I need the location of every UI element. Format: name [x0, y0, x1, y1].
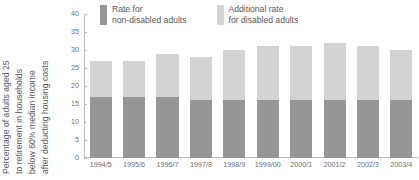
bar-slot-1998-9[interactable] — [218, 14, 251, 158]
chart-container: Percentage of adults aged 25 to retireme… — [0, 0, 419, 180]
y-tick-label: 15 — [71, 99, 79, 108]
stacked-bar[interactable] — [190, 57, 212, 158]
stacked-bar[interactable] — [390, 50, 412, 158]
bar-slot-1995-6[interactable] — [117, 14, 150, 158]
y-tick-label: 40 — [71, 9, 79, 18]
y-tick-label: 35 — [71, 27, 79, 36]
bar-segment-non-disabled[interactable] — [290, 100, 312, 158]
bar-segment-non-disabled[interactable] — [257, 100, 279, 158]
bar-segment-non-disabled[interactable] — [90, 97, 112, 158]
bar-slot-2002-3[interactable] — [351, 14, 384, 158]
legend-label-non-disabled-line1: Rate for — [112, 4, 143, 14]
x-tick-label-2003-4: 2003/4 — [385, 160, 418, 176]
bar-segment-disabled-additional[interactable] — [390, 50, 412, 100]
bar-slot-1997-8[interactable] — [184, 14, 217, 158]
y-tick-label: 10 — [71, 117, 79, 126]
x-tick-label-1999-00: 1999/00 — [251, 160, 284, 176]
x-tick-label-1995-6: 1995/6 — [117, 160, 150, 176]
y-axis-title-line-4: after deducting housing costs — [40, 61, 50, 174]
bar-segment-disabled-additional[interactable] — [123, 61, 145, 97]
bar-segment-non-disabled[interactable] — [123, 97, 145, 158]
bar-segment-non-disabled[interactable] — [390, 100, 412, 158]
bar-slot-2001-2[interactable] — [318, 14, 351, 158]
y-tick-label: 5 — [75, 135, 79, 144]
stacked-bar[interactable] — [324, 43, 346, 158]
bar-slot-2000-1[interactable] — [284, 14, 317, 158]
legend-label-disabled-line1: Additional rate — [229, 4, 284, 14]
bar-segment-disabled-additional[interactable] — [257, 46, 279, 100]
y-axis-title-line-3: below 60% median income — [27, 70, 37, 174]
bar-segment-disabled-additional[interactable] — [223, 50, 245, 100]
x-tick-label-1994-5: 1994/5 — [84, 160, 117, 176]
bar-group — [84, 14, 418, 158]
y-tick-label: 30 — [71, 45, 79, 54]
bar-segment-disabled-additional[interactable] — [324, 43, 346, 101]
stacked-bar[interactable] — [156, 54, 178, 158]
stacked-bar[interactable] — [357, 46, 379, 158]
bar-segment-non-disabled[interactable] — [223, 100, 245, 158]
bar-slot-1996-7[interactable] — [151, 14, 184, 158]
x-axis-labels: 1994/51995/61996/71997/81998/91999/00200… — [84, 160, 418, 176]
y-axis-title: Percentage of adults aged 25 to retireme… — [0, 0, 62, 180]
bar-segment-disabled-additional[interactable] — [357, 46, 379, 100]
bar-segment-non-disabled[interactable] — [324, 100, 346, 158]
y-tick-label: 0 — [75, 153, 79, 162]
plot-area: 0510152025303540 — [84, 14, 418, 158]
y-axis-title-line-2: to retirement in households — [14, 69, 24, 174]
stacked-bar[interactable] — [90, 61, 112, 158]
x-tick-label-2000-1: 2000/1 — [284, 160, 317, 176]
y-axis-title-line-1: Percentage of adults aged 25 — [1, 60, 11, 174]
bar-segment-non-disabled[interactable] — [190, 100, 212, 158]
bar-segment-disabled-additional[interactable] — [290, 46, 312, 100]
x-tick-label-1997-8: 1997/8 — [184, 160, 217, 176]
bar-slot-1994-5[interactable] — [84, 14, 117, 158]
x-tick-label-2002-3: 2002/3 — [351, 160, 384, 176]
stacked-bar[interactable] — [223, 50, 245, 158]
x-tick-label-2001-2: 2001/2 — [318, 160, 351, 176]
x-tick-label-1996-7: 1996/7 — [151, 160, 184, 176]
stacked-bar[interactable] — [257, 46, 279, 158]
y-tick-label: 20 — [71, 81, 79, 90]
bar-segment-non-disabled[interactable] — [156, 97, 178, 158]
bar-slot-1999-00[interactable] — [251, 14, 284, 158]
y-tick-label: 25 — [71, 63, 79, 72]
stacked-bar[interactable] — [290, 46, 312, 158]
bar-slot-2003-4[interactable] — [385, 14, 418, 158]
bar-segment-disabled-additional[interactable] — [156, 54, 178, 97]
bar-segment-non-disabled[interactable] — [357, 100, 379, 158]
bar-segment-disabled-additional[interactable] — [190, 57, 212, 100]
x-tick-label-1998-9: 1998/9 — [218, 160, 251, 176]
bar-segment-disabled-additional[interactable] — [90, 61, 112, 97]
stacked-bar[interactable] — [123, 61, 145, 158]
